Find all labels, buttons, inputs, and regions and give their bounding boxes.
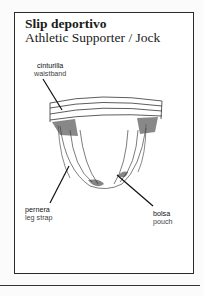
athletic-supporter-illustration bbox=[0, 0, 203, 296]
label-waistband: cinturilla waistband bbox=[34, 62, 66, 78]
pouch-leader-line bbox=[117, 175, 153, 206]
leg-strap-leader-line bbox=[50, 166, 69, 203]
waistband-leader-line bbox=[43, 79, 62, 110]
horizontal-rule bbox=[0, 285, 200, 286]
label-pouch: bolsa pouch bbox=[153, 210, 173, 226]
label-leg-strap: pernera leg strap bbox=[25, 206, 53, 222]
